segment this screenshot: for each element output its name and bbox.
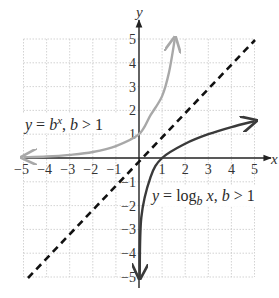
exponential-curve [24,39,175,157]
y-axis-label: y [134,4,143,20]
x-tick-label: −4 [37,162,52,177]
y-tick-label: −5 [121,270,136,285]
chart: x y −5−4−3−2−112345 54321−1−2−3−4−5 y = … [0,0,279,298]
x-tick-label: 2 [182,162,189,177]
y-tick-label: 3 [129,80,136,95]
y-tick-label: 2 [129,103,136,118]
y-tick-label: 4 [129,56,136,71]
y-tick-label: −3 [121,222,136,237]
x-tick-label: −3 [60,162,75,177]
y-tick-label: −2 [121,199,136,214]
x-tick-label: −2 [83,162,98,177]
y-tick-label: 5 [129,32,136,47]
x-tick-label: 4 [228,162,235,177]
x-tick-label: 3 [205,162,212,177]
x-axis-label: x [270,151,278,167]
y-tick-label: −4 [121,246,136,261]
x-tick-label: −1 [106,162,121,177]
identity-line [28,40,255,278]
x-tick-label: −5 [14,162,29,177]
exp-curve-label: y = bx, b > 1 [23,114,103,134]
x-tick-label: 1 [159,162,166,177]
x-tick-label: 5 [251,162,258,177]
